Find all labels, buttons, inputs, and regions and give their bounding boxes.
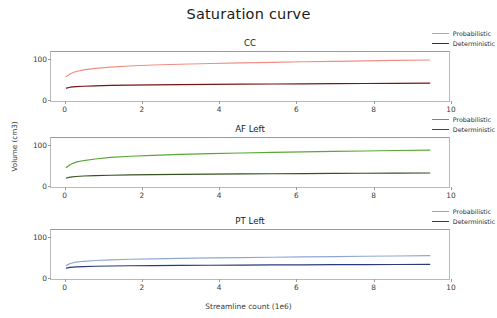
y-axis-label: Volume (cm3) <box>10 112 19 182</box>
series-layer <box>51 52 449 101</box>
legend-swatch-deterministic <box>432 43 449 44</box>
y-tick-label: 100 <box>33 233 47 242</box>
legend-item[interactable]: Deterministic <box>432 218 495 225</box>
legend-swatch-probabilistic <box>432 119 449 120</box>
x-tick-label: 4 <box>217 191 222 200</box>
series-layer <box>51 138 449 187</box>
x-tick-label: 8 <box>371 283 376 292</box>
y-tick-label: 100 <box>33 55 47 64</box>
x-tick-label: 10 <box>446 283 455 292</box>
legend-swatch-probabilistic <box>432 33 449 34</box>
x-tick-mark <box>296 279 297 282</box>
x-tick-mark <box>65 101 66 104</box>
x-tick-mark <box>451 101 452 104</box>
plot-area: 01000246810 <box>50 229 450 280</box>
x-tick-label: 6 <box>294 191 299 200</box>
x-axis-label: Streamline count (1e6) <box>0 302 497 311</box>
x-tick-mark <box>296 101 297 104</box>
x-tick-mark <box>142 187 143 190</box>
y-tick-label: 0 <box>42 181 47 190</box>
x-tick-label: 4 <box>217 283 222 292</box>
x-tick-mark <box>219 187 220 190</box>
y-tick-mark <box>48 186 51 187</box>
x-tick-mark <box>142 101 143 104</box>
x-tick-mark <box>65 187 66 190</box>
x-tick-label: 6 <box>294 283 299 292</box>
x-tick-label: 2 <box>139 191 144 200</box>
subplot-title: CC <box>50 38 450 48</box>
x-tick-mark <box>142 279 143 282</box>
legend-label: Deterministic <box>453 218 495 225</box>
x-tick-label: 10 <box>446 191 455 200</box>
legend: Probabilistic Deterministic <box>432 30 495 47</box>
legend: Probabilistic Deterministic <box>432 116 495 133</box>
legend-label: Probabilistic <box>453 116 491 123</box>
series-layer <box>51 230 449 279</box>
series-line-deterministic <box>66 83 429 88</box>
x-tick-label: 0 <box>62 191 67 200</box>
legend-swatch-deterministic <box>432 221 449 222</box>
y-tick-label: 0 <box>42 273 47 282</box>
legend-swatch-probabilistic <box>432 211 449 212</box>
y-tick-mark <box>48 237 51 238</box>
x-tick-label: 2 <box>139 283 144 292</box>
x-tick-mark <box>219 101 220 104</box>
y-tick-label: 0 <box>42 95 47 104</box>
x-tick-label: 2 <box>139 105 144 114</box>
legend-item[interactable]: Probabilistic <box>432 116 495 123</box>
plot-area: 01000246810 <box>50 51 450 102</box>
legend-item[interactable]: Deterministic <box>432 126 495 133</box>
legend-item[interactable]: Probabilistic <box>432 30 495 37</box>
x-tick-mark <box>374 187 375 190</box>
figure-canvas: Saturation curve Volume (cm3) Streamline… <box>0 0 497 318</box>
x-tick-label: 10 <box>446 105 455 114</box>
series-line-probabilistic <box>66 256 429 266</box>
legend-label: Probabilistic <box>453 208 491 215</box>
x-tick-mark <box>65 279 66 282</box>
series-line-deterministic <box>66 264 429 268</box>
legend-label: Probabilistic <box>453 30 491 37</box>
subplot-title: AF Left <box>50 124 450 134</box>
x-tick-mark <box>451 279 452 282</box>
series-line-probabilistic <box>66 150 429 167</box>
x-tick-label: 0 <box>62 283 67 292</box>
plot-area: 01000246810 <box>50 137 450 188</box>
legend: Probabilistic Deterministic <box>432 208 495 225</box>
y-tick-mark <box>48 145 51 146</box>
figure-title: Saturation curve <box>0 6 497 22</box>
x-tick-label: 0 <box>62 105 67 114</box>
legend-item[interactable]: Deterministic <box>432 40 495 47</box>
series-line-deterministic <box>66 173 429 178</box>
x-tick-mark <box>374 279 375 282</box>
x-tick-mark <box>374 101 375 104</box>
legend-label: Deterministic <box>453 40 495 47</box>
legend-swatch-deterministic <box>432 129 449 130</box>
x-tick-label: 6 <box>294 105 299 114</box>
legend-label: Deterministic <box>453 126 495 133</box>
y-tick-mark <box>48 59 51 60</box>
y-tick-label: 100 <box>33 141 47 150</box>
x-tick-mark <box>219 279 220 282</box>
y-tick-mark <box>48 100 51 101</box>
x-tick-mark <box>296 187 297 190</box>
x-tick-label: 4 <box>217 105 222 114</box>
x-tick-mark <box>451 187 452 190</box>
subplot-title: PT Left <box>50 216 450 226</box>
x-tick-label: 8 <box>371 105 376 114</box>
legend-item[interactable]: Probabilistic <box>432 208 495 215</box>
series-line-probabilistic <box>66 60 429 77</box>
x-tick-label: 8 <box>371 191 376 200</box>
y-tick-mark <box>48 278 51 279</box>
